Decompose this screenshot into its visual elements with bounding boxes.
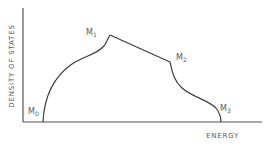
dos-curve-rise [43, 35, 110, 122]
m0-base: M [28, 107, 35, 116]
m1-subscript: 1 [93, 31, 97, 38]
m1-base: M [86, 28, 93, 37]
critical-point-label-m1: M1 [86, 28, 97, 38]
m3-subscript: 3 [227, 107, 231, 114]
diagram-canvas [0, 0, 268, 146]
x-axis-label: ENERGY [206, 132, 239, 140]
m2-subscript: 2 [183, 56, 187, 63]
m3-base: M [220, 104, 227, 113]
m2-base: M [176, 53, 183, 62]
critical-point-label-m3: M3 [220, 104, 231, 114]
critical-point-label-m0: M0 [28, 107, 39, 117]
dos-curve-plateau [110, 35, 170, 62]
dos-curve-fall [170, 62, 221, 122]
y-axis-label: DENSITY OF STATES [8, 24, 16, 107]
density-of-states-diagram: DENSITY OF STATES ENERGY M0 M1 M2 M3 [0, 0, 268, 146]
critical-point-label-m2: M2 [176, 53, 187, 63]
m0-subscript: 0 [35, 110, 39, 117]
